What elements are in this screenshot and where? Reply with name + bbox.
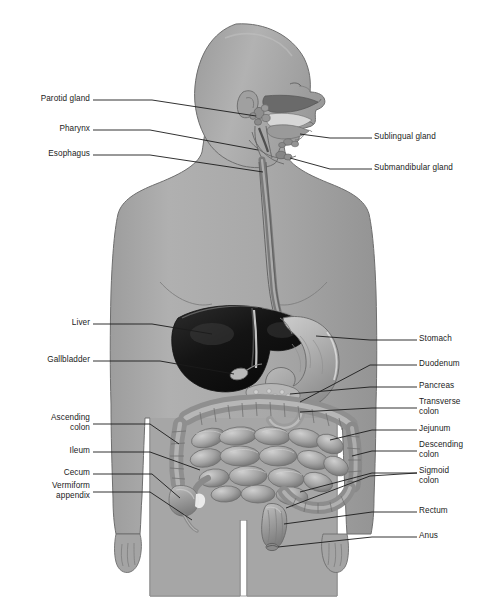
leader-sublingual-gland: [300, 134, 372, 138]
digestive-system-diagram: [0, 0, 487, 606]
head-profile: [195, 24, 325, 168]
label-jejunum: Jejunum: [419, 424, 451, 434]
label-sigmoid-colon: Sigmoid colon: [419, 466, 449, 486]
label-descending-colon: Descending colon: [419, 440, 463, 460]
leader-submandibular-gland: [290, 158, 372, 169]
label-parotid-gland: Parotid gland: [14, 94, 90, 104]
label-rectum: Rectum: [419, 506, 448, 516]
label-pancreas: Pancreas: [419, 381, 454, 391]
label-gallbladder: Gallbladder: [14, 355, 90, 365]
label-ileum: Ileum: [14, 446, 90, 456]
label-transverse-colon: Transverse colon: [419, 397, 460, 417]
label-duodenum: Duodenum: [419, 359, 460, 369]
label-sublingual-gland: Sublingual gland: [374, 132, 436, 142]
cecum-shape: [169, 485, 198, 516]
label-anus: Anus: [419, 531, 438, 541]
left-hand: [115, 534, 142, 573]
label-ascending-colon: Ascending colon: [14, 413, 90, 433]
label-esophagus: Esophagus: [14, 149, 90, 159]
label-cecum: Cecum: [14, 468, 90, 478]
label-submandibular-gland: Submandibular gland: [374, 163, 453, 173]
label-stomach: Stomach: [419, 334, 452, 344]
label-liver: Liver: [14, 318, 90, 328]
label-vermiform-appendix: Vermiform appendix: [14, 481, 90, 501]
anus-shape: [266, 543, 278, 550]
label-pharynx: Pharynx: [14, 124, 90, 134]
